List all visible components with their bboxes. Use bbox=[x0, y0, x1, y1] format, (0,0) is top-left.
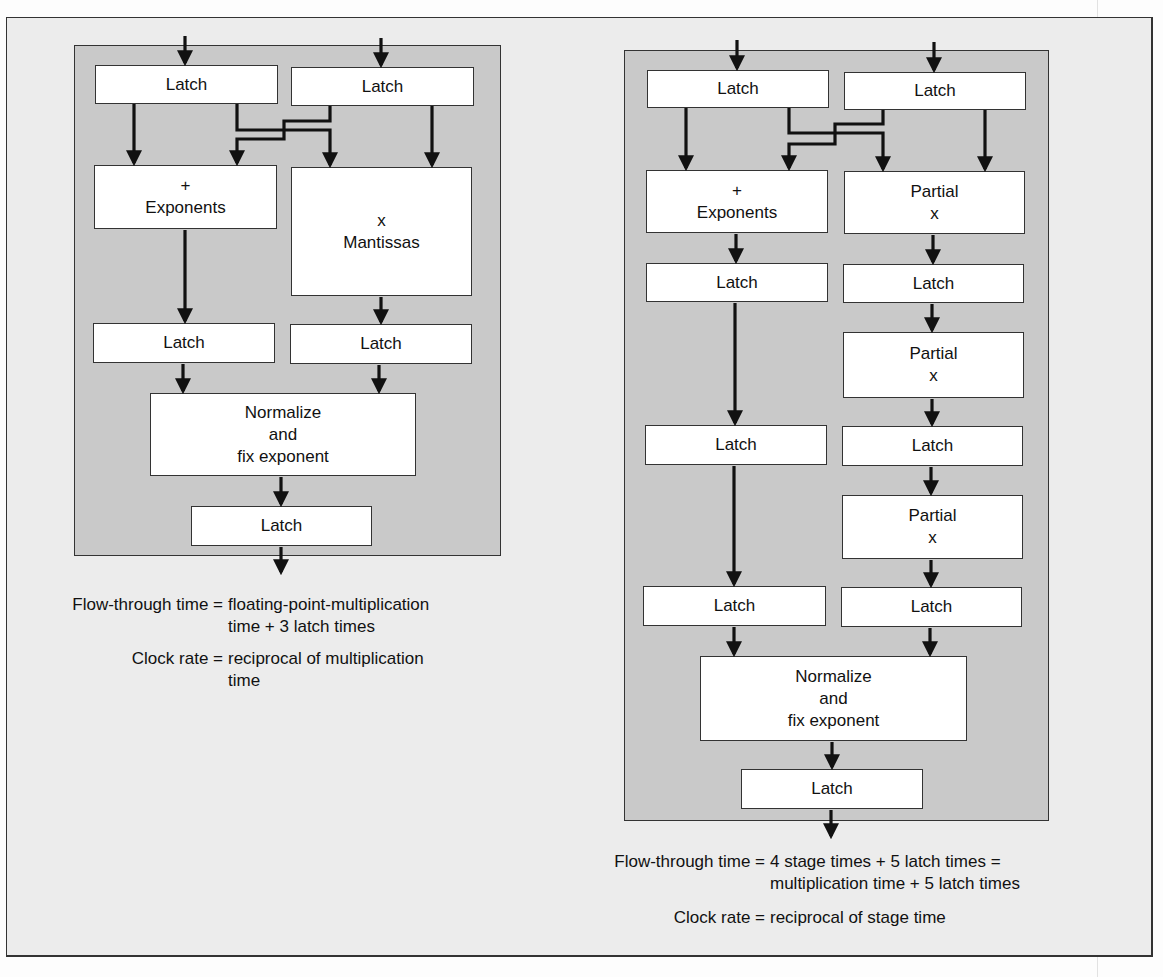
operator-symbol: x bbox=[377, 210, 386, 232]
box-label: Latch bbox=[913, 273, 955, 295]
box-label: Partial bbox=[909, 343, 957, 365]
box-label: Latch bbox=[716, 272, 758, 294]
box-label: Latch bbox=[715, 434, 757, 456]
box-label-line: and bbox=[819, 688, 847, 710]
right-latch-input-b: Latch bbox=[844, 72, 1026, 110]
box-label: Exponents bbox=[145, 197, 225, 219]
left-latch-mantissa: Latch bbox=[290, 324, 472, 364]
operator-symbol: x bbox=[929, 365, 938, 387]
box-label: Latch bbox=[911, 596, 953, 618]
flow-through-value: 4 stage times + 5 latch times = bbox=[770, 851, 1001, 873]
right-latch-exponent-2: Latch bbox=[645, 425, 827, 465]
operator-symbol: x bbox=[928, 527, 937, 549]
right-caption: Flow-through time = 4 stage times + 5 la… bbox=[582, 851, 1020, 929]
right-latch-partial-1: Latch bbox=[843, 264, 1024, 303]
right-partial-multiply-1: Partial x bbox=[844, 171, 1025, 234]
right-latch-exponent-3: Latch bbox=[643, 586, 826, 626]
flow-through-value-cont: time + 3 latch times bbox=[228, 616, 375, 638]
right-partial-multiply-3: Partial x bbox=[842, 495, 1023, 559]
flow-through-value-cont: multiplication time + 5 latch times bbox=[770, 873, 1020, 895]
clock-rate-value: reciprocal of stage time bbox=[770, 907, 946, 929]
box-label-line: fix exponent bbox=[788, 710, 880, 732]
left-mantissas-multiplier: x Mantissas bbox=[291, 167, 472, 296]
spacer bbox=[32, 616, 223, 638]
box-label: Latch bbox=[166, 74, 208, 96]
box-label: Latch bbox=[811, 778, 853, 800]
box-label: Partial bbox=[910, 181, 958, 203]
left-latch-output: Latch bbox=[191, 506, 372, 546]
box-label: Partial bbox=[908, 505, 956, 527]
left-exponents-adder: + Exponents bbox=[94, 165, 277, 229]
clock-rate-value: reciprocal of multiplication bbox=[228, 648, 424, 670]
right-latch-partial-2: Latch bbox=[842, 426, 1023, 466]
box-label: Mantissas bbox=[343, 232, 420, 254]
box-label: Latch bbox=[163, 332, 205, 354]
box-label: Latch bbox=[717, 78, 759, 100]
left-diagram-panel bbox=[74, 45, 501, 556]
box-label: Latch bbox=[914, 80, 956, 102]
operator-symbol: + bbox=[732, 180, 742, 202]
box-label: Latch bbox=[714, 595, 756, 617]
flow-through-value: floating-point-multiplication bbox=[228, 594, 429, 616]
operator-symbol: x bbox=[930, 203, 939, 225]
spacer bbox=[582, 873, 765, 895]
right-latch-exponent-1: Latch bbox=[646, 263, 828, 302]
flow-through-label: Flow-through time = bbox=[582, 851, 765, 873]
flow-through-label: Flow-through time = bbox=[32, 594, 223, 616]
box-label: Latch bbox=[362, 76, 404, 98]
left-latch-input-b: Latch bbox=[291, 67, 474, 106]
right-latch-input-a: Latch bbox=[647, 70, 829, 108]
left-latch-input-a: Latch bbox=[95, 65, 278, 104]
box-label: Latch bbox=[360, 333, 402, 355]
left-latch-exponent: Latch bbox=[93, 323, 275, 363]
right-exponents-adder: + Exponents bbox=[646, 170, 828, 233]
spacer bbox=[32, 670, 223, 692]
box-label-line: fix exponent bbox=[237, 446, 329, 468]
box-label: Latch bbox=[261, 515, 303, 537]
box-label: Latch bbox=[912, 435, 954, 457]
box-label-line: and bbox=[269, 424, 297, 446]
box-label-line: Normalize bbox=[795, 666, 872, 688]
left-normalize-stage: Normalize and fix exponent bbox=[150, 393, 416, 476]
clock-rate-label: Clock rate = bbox=[32, 648, 223, 670]
right-partial-multiply-2: Partial x bbox=[843, 332, 1024, 398]
box-label-line: Normalize bbox=[245, 402, 322, 424]
right-latch-partial-3: Latch bbox=[841, 587, 1022, 627]
left-caption: Flow-through time = floating-point-multi… bbox=[32, 594, 429, 692]
operator-symbol: + bbox=[181, 175, 191, 197]
right-normalize-stage: Normalize and fix exponent bbox=[700, 656, 967, 741]
clock-rate-value-cont: time bbox=[228, 670, 260, 692]
clock-rate-label: Clock rate = bbox=[582, 907, 765, 929]
right-latch-output: Latch bbox=[741, 769, 923, 809]
box-label: Exponents bbox=[697, 202, 777, 224]
